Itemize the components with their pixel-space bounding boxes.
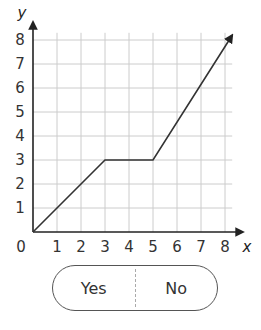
x-tick-label: 4: [124, 238, 134, 256]
yes-no-toggle: Yes No: [52, 265, 218, 311]
y-tick-label: 4: [15, 127, 25, 145]
x-tick-label: 3: [100, 238, 110, 256]
y-tick-label: 3: [15, 151, 25, 169]
y-tick-label: 1: [15, 199, 25, 217]
x-tick-label: 2: [76, 238, 86, 256]
y-tick-label: 6: [15, 79, 25, 97]
x-axis-label: x: [242, 238, 252, 256]
y-axis-label: y: [17, 4, 28, 22]
x-tick-label: 0: [16, 238, 26, 256]
x-tick-label: 6: [172, 238, 182, 256]
data-line: [33, 35, 232, 232]
yes-button[interactable]: Yes: [53, 266, 135, 310]
line-chart: 01234567812345678xy: [0, 0, 261, 262]
y-tick-label: 2: [15, 175, 25, 193]
x-tick-label: 1: [52, 238, 62, 256]
y-tick-label: 5: [15, 103, 25, 121]
x-tick-label: 8: [220, 238, 230, 256]
y-tick-label: 7: [15, 55, 25, 73]
x-tick-label: 5: [148, 238, 158, 256]
no-button[interactable]: No: [136, 266, 218, 310]
x-tick-label: 7: [196, 238, 206, 256]
y-tick-label: 8: [15, 31, 25, 49]
